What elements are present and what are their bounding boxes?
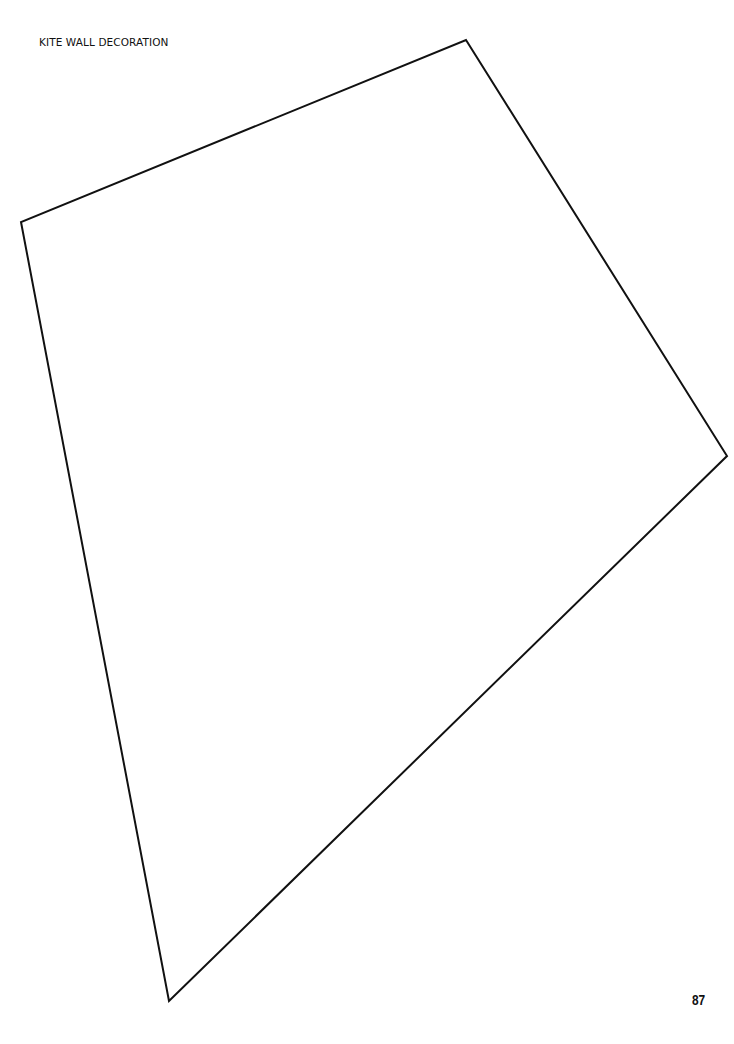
page-number: 87 [692, 992, 705, 1008]
document-page: KITE WALL DECORATION 87 [0, 0, 734, 1044]
kite-outline-icon [21, 40, 727, 1001]
kite-outline-figure [0, 0, 734, 1044]
